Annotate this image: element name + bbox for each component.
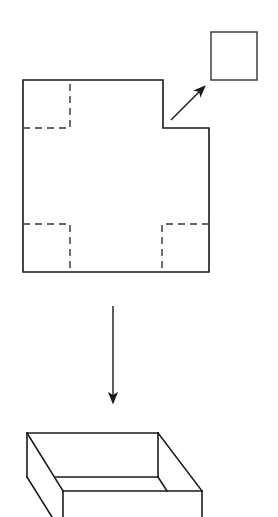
open-box — [27, 433, 202, 517]
box-edge — [158, 477, 167, 491]
box-edge — [27, 433, 63, 491]
dashed-corner-bottom-right — [162, 224, 209, 272]
box-folding-diagram — [0, 0, 278, 517]
box-edge — [158, 433, 202, 491]
box-edge — [27, 477, 52, 517]
cut-out-square — [211, 32, 257, 80]
dashed-corner-top-left — [23, 80, 70, 128]
dashed-corner-bottom-left — [23, 224, 70, 272]
sheet-outline — [23, 80, 209, 272]
sheet-net — [23, 80, 209, 272]
cut-arrow-icon — [171, 87, 204, 120]
